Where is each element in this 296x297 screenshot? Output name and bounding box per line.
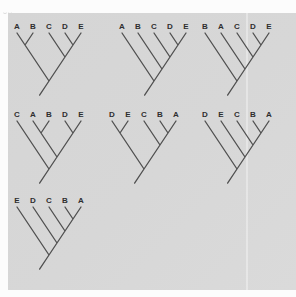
taxon-label: C <box>229 110 245 119</box>
tree-branches <box>112 121 176 183</box>
taxon-label: B <box>25 22 41 31</box>
tree-branches <box>17 207 81 269</box>
taxon-label: B <box>197 22 213 31</box>
taxon-label: B <box>130 22 146 31</box>
taxon-label: E <box>213 110 229 119</box>
cladogram-tree-4: CABDE <box>9 110 91 187</box>
tree-svg <box>104 121 186 187</box>
taxon-labels: ABCDE <box>9 22 89 31</box>
taxon-labels: EDCBA <box>9 196 89 205</box>
taxon-label: A <box>9 22 25 31</box>
tree-branches <box>17 33 81 95</box>
taxon-label: B <box>152 110 168 119</box>
tree-branches <box>205 33 269 95</box>
taxon-label: E <box>120 110 136 119</box>
cladogram-tree-2: ABCDE <box>114 22 196 99</box>
taxon-label: B <box>41 110 57 119</box>
taxon-label: A <box>261 110 277 119</box>
taxon-label: C <box>136 110 152 119</box>
cladogram-tree-6: DECBA <box>197 110 279 187</box>
taxon-label: C <box>9 110 25 119</box>
taxon-label: A <box>168 110 184 119</box>
taxon-label: E <box>261 22 277 31</box>
taxon-label: B <box>245 110 261 119</box>
taxon-labels: ABCDE <box>114 22 194 31</box>
tree-svg <box>197 121 279 187</box>
taxon-label: B <box>57 196 73 205</box>
taxon-label: E <box>178 22 194 31</box>
page-corner-artifact <box>3 0 17 4</box>
taxon-label: D <box>25 196 41 205</box>
taxon-label: D <box>162 22 178 31</box>
taxon-labels: DECBA <box>197 110 277 119</box>
taxon-label: A <box>73 196 89 205</box>
taxon-label: C <box>41 196 57 205</box>
taxon-label: D <box>57 110 73 119</box>
tree-branches <box>122 33 186 95</box>
taxon-label: E <box>9 196 25 205</box>
taxon-label: A <box>213 22 229 31</box>
taxon-label: D <box>197 110 213 119</box>
taxon-label: D <box>104 110 120 119</box>
taxon-labels: CABDE <box>9 110 89 119</box>
tree-svg <box>9 33 91 99</box>
tree-svg <box>9 121 91 187</box>
taxon-label: D <box>245 22 261 31</box>
taxon-label: C <box>41 22 57 31</box>
cladogram-tree-5: DECBA <box>104 110 186 187</box>
taxon-label: A <box>25 110 41 119</box>
taxon-label: D <box>57 22 73 31</box>
taxon-labels: DECBA <box>104 110 184 119</box>
taxon-label: E <box>73 110 89 119</box>
tree-branches <box>17 121 81 183</box>
cladogram-tree-7: EDCBA <box>9 196 91 273</box>
tree-svg <box>9 207 91 273</box>
cladogram-tree-3: BACDE <box>197 22 279 99</box>
taxon-labels: BACDE <box>197 22 277 31</box>
cladogram-tree-1: ABCDE <box>9 22 91 99</box>
taxon-label: E <box>73 22 89 31</box>
tree-branches <box>205 121 269 183</box>
taxon-label: A <box>114 22 130 31</box>
taxon-label: C <box>146 22 162 31</box>
tree-svg <box>197 33 279 99</box>
tree-svg <box>114 33 196 99</box>
page: ABCDE ABCDE BACDE CABDE DECBA DECBA <box>0 0 296 297</box>
taxon-label: C <box>229 22 245 31</box>
